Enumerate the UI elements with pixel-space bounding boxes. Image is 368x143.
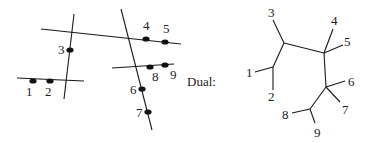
dual-label: Dual: [187,74,216,89]
point-9 [161,62,168,67]
leaf-label-4: 4 [331,13,338,28]
tree-edge [292,109,310,113]
point-label-7: 7 [136,105,143,120]
point-1 [29,78,36,83]
point-7 [144,109,151,114]
tree-edge [284,43,324,53]
point-label-2: 2 [45,84,52,99]
leaf-label-6: 6 [348,74,355,89]
tree-edge [326,87,340,102]
dual-tree [255,20,345,123]
diagram-canvas: 123456789 Dual: 123456789 [0,0,368,143]
intersection-points [29,36,168,114]
leaf-label-9: 9 [314,125,321,140]
point-6 [138,86,145,91]
point-3 [66,47,73,52]
point-label-1: 1 [26,84,33,99]
tree-edge [310,87,326,109]
leaf-label-7: 7 [342,102,349,117]
leaf-label-5: 5 [344,34,351,49]
point-label-9: 9 [170,67,177,82]
point-label-6: 6 [130,82,137,97]
point-label-8: 8 [152,69,159,84]
tree-edge [310,109,315,123]
tree-edge [273,20,284,43]
point-4 [142,36,149,41]
tree-edge [324,53,326,87]
point-label-5: 5 [163,21,170,36]
point-label-4: 4 [143,18,150,33]
leaf-label-1: 1 [246,65,253,80]
leaf-label-8: 8 [282,107,289,122]
point-2 [46,78,53,83]
leaf-label-3: 3 [268,5,275,20]
tree-edge [273,43,284,67]
tree-edge [255,67,273,72]
line-B [64,14,74,99]
leaf-label-2: 2 [268,89,275,104]
point-5 [161,39,168,44]
point-labels: 123456789 [26,18,177,120]
point-label-3: 3 [58,42,65,57]
dual-tree-leaf-labels: 123456789 [246,5,355,140]
tree-edge [326,81,345,87]
